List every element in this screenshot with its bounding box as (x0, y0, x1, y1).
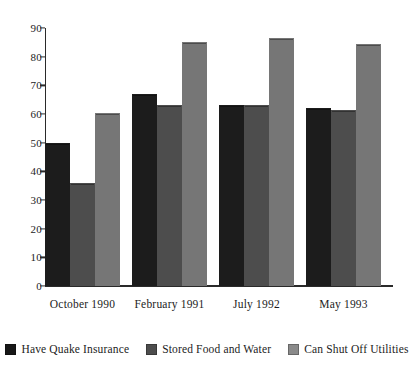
legend-item[interactable]: Can Shut Off Utilities (288, 343, 408, 356)
bar (157, 105, 182, 286)
bar (45, 143, 70, 286)
legend-label: Stored Food and Water (162, 343, 271, 356)
bar (306, 108, 331, 286)
bars-layer (45, 28, 393, 286)
bar (219, 105, 244, 286)
y-tick-mark (40, 228, 45, 229)
legend-swatch-icon (288, 344, 299, 355)
y-tick-mark (40, 257, 45, 258)
y-tick-mark (40, 56, 45, 57)
x-tick-label: July 1992 (233, 296, 280, 312)
bar (269, 38, 294, 286)
bar (244, 105, 269, 286)
chart-legend: Have Quake InsuranceStored Food and Wate… (0, 343, 414, 356)
y-tick-mark (40, 85, 45, 86)
bar (356, 44, 381, 286)
y-tick-mark (40, 113, 45, 114)
bar (182, 42, 207, 286)
bar-group (219, 28, 294, 286)
bar-chart: 0102030405060708090 October 1990February… (0, 0, 414, 384)
x-tick-label: February 1991 (135, 296, 205, 312)
y-tick-mark (40, 285, 45, 286)
legend-label: Can Shut Off Utilities (304, 343, 408, 356)
bar (132, 94, 157, 286)
bar-group (306, 28, 381, 286)
bar-group (132, 28, 207, 286)
x-axis-tick-labels: October 1990February 1991July 1992May 19… (45, 296, 393, 320)
bar (331, 110, 356, 286)
x-tick-label: October 1990 (50, 296, 115, 312)
y-tick-mark (40, 142, 45, 143)
bar (70, 183, 95, 286)
legend-swatch-icon (5, 344, 16, 355)
bar-group (45, 28, 120, 286)
x-tick-label: May 1993 (319, 296, 368, 312)
legend-label: Have Quake Insurance (21, 343, 129, 356)
legend-item[interactable]: Have Quake Insurance (5, 343, 129, 356)
y-tick-mark (40, 171, 45, 172)
y-tick-mark (40, 27, 45, 28)
y-tick-mark (40, 199, 45, 200)
legend-item[interactable]: Stored Food and Water (146, 343, 271, 356)
plot-area: 0102030405060708090 (0, 0, 414, 300)
bar (95, 113, 120, 286)
legend-swatch-icon (146, 344, 157, 355)
y-axis-tick-labels: 0102030405060708090 (18, 20, 42, 286)
